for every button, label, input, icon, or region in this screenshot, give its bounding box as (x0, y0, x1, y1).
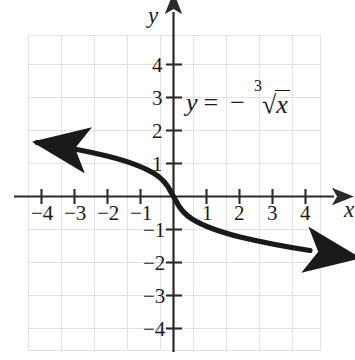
y-axis-label: y (148, 4, 158, 27)
y-tick-label-1: 1 (152, 154, 163, 175)
equation-annotation: y = − 3 √x (186, 90, 290, 118)
y-tick-label-neg4: −4 (143, 319, 165, 340)
y-tick-label-3: 3 (152, 88, 163, 109)
x-axis-label: x (344, 198, 354, 221)
x-tick-label-neg4: −4 (31, 203, 53, 224)
equation-lhs: y (186, 90, 198, 116)
y-tick-label-2: 2 (152, 121, 163, 142)
radical-sign: √ (253, 92, 276, 118)
x-tick-label-neg2: −2 (97, 203, 119, 224)
x-tick-label-1: 1 (202, 203, 213, 224)
x-tick-label-2: 2 (234, 203, 245, 224)
x-tick-label-3: 3 (267, 203, 278, 224)
x-tick-label-4: 4 (300, 203, 311, 224)
graph-figure: −4 −3 −2 −1 1 2 3 4 4 3 2 1 −1 −2 −3 −4 … (0, 0, 355, 360)
radical-expression: 3 √x (253, 90, 290, 118)
radicand: x (275, 90, 290, 118)
equation-operator: = (204, 90, 219, 116)
y-tick-label-4: 4 (152, 55, 163, 76)
plot-canvas (0, 0, 355, 360)
equation-minus-sign: − (230, 90, 245, 116)
y-tick-label-neg3: −3 (143, 286, 165, 307)
y-tick-label-neg2: −2 (143, 253, 165, 274)
x-tick-label-neg3: −3 (64, 203, 86, 224)
y-tick-label-neg1: −1 (143, 220, 165, 241)
